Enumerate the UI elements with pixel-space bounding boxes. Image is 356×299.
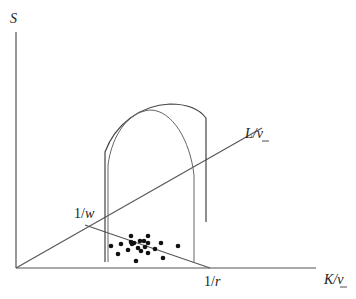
data-point	[146, 241, 151, 246]
w-intercept-label: 1/w	[74, 206, 95, 221]
data-point	[116, 252, 121, 257]
data-point	[109, 244, 114, 249]
data-point	[138, 239, 143, 244]
data-point	[176, 244, 181, 249]
inner-frontier-curve	[108, 110, 194, 262]
data-point	[159, 241, 164, 246]
data-point	[153, 247, 158, 252]
data-point	[134, 259, 139, 264]
data-point	[142, 239, 147, 244]
data-point	[119, 242, 124, 247]
outer-frontier-curve	[105, 104, 206, 262]
data-point	[139, 249, 144, 254]
data-point	[161, 256, 166, 261]
scatter-points	[109, 234, 181, 264]
r-intercept-label: 1/r	[204, 274, 221, 289]
k-axis-label: K/v	[323, 272, 344, 287]
data-point	[126, 248, 131, 253]
data-point	[146, 251, 151, 256]
diagram-canvas: S L/v K/v 1/w 1/r	[0, 0, 356, 299]
iso-cost-line	[85, 225, 210, 268]
data-point	[132, 241, 137, 246]
data-point	[143, 245, 148, 250]
data-point	[146, 234, 151, 239]
s-axis-label: S	[10, 11, 17, 26]
l-axis-label: L/v	[244, 126, 264, 141]
data-point	[129, 234, 134, 239]
